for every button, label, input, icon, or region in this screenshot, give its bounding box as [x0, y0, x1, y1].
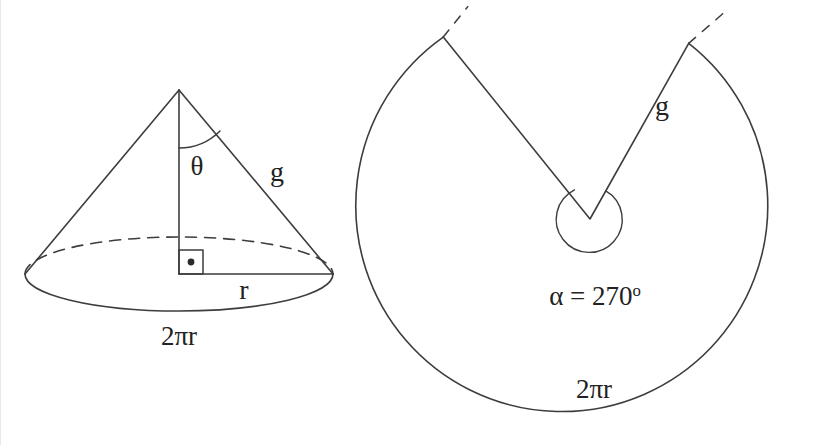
sector-central-angle-arc [556, 190, 622, 253]
sector-major-arc [356, 37, 768, 411]
figure-vector-layer [1, 0, 818, 445]
cone-slant-height-label: g [270, 158, 284, 186]
dashed-extension-left [443, 7, 468, 37]
sector-central-angle-label: α = 270o [549, 283, 641, 310]
sector-arc-length-label: 2πr [576, 376, 612, 403]
geometry-figure-canvas: θ g r 2πr g α = 270o 2πr [0, 0, 818, 445]
cone-base-front-arc [25, 274, 333, 311]
cone-right-slant-edge [179, 90, 333, 274]
cone-figure [25, 90, 333, 311]
sector-central-angle-value: α = 270 [549, 281, 632, 311]
dashed-extension-right [689, 13, 724, 43]
degree-symbol: o [633, 281, 641, 300]
cone-base-circumference-label: 2πr [161, 323, 197, 350]
sector-slant-height-label: g [655, 92, 669, 120]
sector-bounding-radii [443, 37, 688, 219]
sector-figure [356, 7, 768, 412]
cone-left-slant-edge [25, 90, 179, 274]
cone-apex-angle-label: θ [191, 153, 204, 180]
right-angle-dot-icon [188, 259, 195, 266]
cone-apex-angle-arc [179, 131, 220, 148]
cone-radius-label: r [239, 276, 248, 304]
